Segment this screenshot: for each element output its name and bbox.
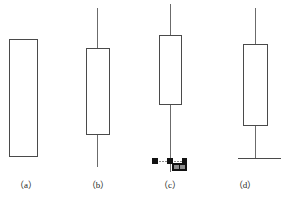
panel-c-caption: （c） [148, 179, 192, 191]
diagram-canvas: （a） （b） （c） （d） [0, 0, 283, 200]
panel-c-group [152, 4, 187, 172]
panel-b-body [87, 49, 110, 135]
panel-b-caption: （b） [76, 179, 120, 191]
panel-b-group [87, 8, 110, 167]
panel-a-body [10, 40, 38, 157]
candlestick-figure-svg [0, 0, 283, 200]
panel-c-body [160, 36, 182, 105]
selection-badge-divider [179, 165, 180, 169]
selection-handle-left[interactable] [152, 158, 158, 164]
panel-a-caption: （a） [4, 179, 48, 191]
panel-d-body [244, 45, 268, 126]
panel-d-group [238, 8, 281, 159]
panel-d-caption: （d） [223, 179, 267, 191]
panel-a-group [10, 40, 38, 157]
